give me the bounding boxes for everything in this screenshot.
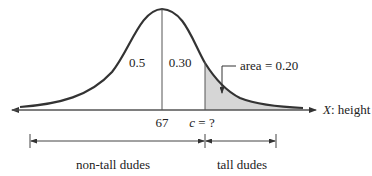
middle-area-label: 0.30 — [169, 55, 192, 70]
mean-label: 67 — [156, 115, 170, 130]
left-half-area-label: 0.5 — [129, 55, 145, 70]
cutoff-label: c = ? — [189, 115, 215, 130]
non-tall-label: non-tall dudes — [76, 157, 150, 172]
tall-label: tall dudes — [217, 157, 267, 172]
axis-label: X: height — [322, 102, 371, 117]
tail-area-label: area = 0.20 — [240, 58, 298, 73]
normal-curve-diagram: 0.5 0.30 area = 0.20 67 c = ? X: height … — [0, 0, 372, 176]
cutoff-rest: = ? — [195, 115, 215, 130]
axis-rest: : height — [331, 102, 371, 117]
